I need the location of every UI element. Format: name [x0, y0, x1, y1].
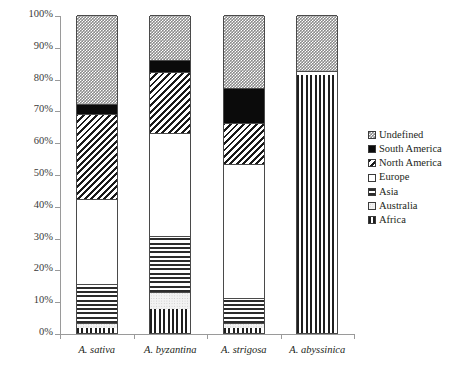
bar-segment-south-america[interactable]: [150, 60, 190, 73]
bar-segment-undefined[interactable]: [77, 15, 117, 104]
bar-a-abyssinica[interactable]: [296, 16, 338, 334]
bar-segment-undefined[interactable]: [297, 15, 337, 71]
bar-segment-europe[interactable]: [150, 133, 190, 236]
bar-segment-africa[interactable]: [224, 328, 264, 333]
bar-segment-australia[interactable]: [224, 323, 264, 328]
bar-segment-australia[interactable]: [77, 323, 117, 328]
y-axis-tick-label: 100%: [29, 8, 54, 19]
bar-segment-north-america[interactable]: [150, 72, 190, 132]
segment-divider: [224, 164, 264, 165]
x-axis-tick-mark: [60, 334, 61, 339]
segment-divider: [150, 292, 190, 293]
y-axis-tick-label: 40%: [34, 199, 53, 210]
bar-segment-south-america[interactable]: [77, 104, 117, 114]
bar-segment-asia[interactable]: [77, 284, 117, 324]
bar-a-sativa[interactable]: [76, 16, 118, 334]
legend-item-australia[interactable]: Australia: [368, 199, 466, 213]
x-axis-label-a-sativa: A. sativa: [60, 344, 134, 355]
segment-divider: [150, 15, 190, 16]
legend-item-africa[interactable]: Africa: [368, 213, 466, 227]
bar-segment-europe[interactable]: [77, 199, 117, 283]
y-axis-tick-label: 90%: [34, 40, 53, 51]
bar-segment-africa[interactable]: [297, 75, 337, 333]
bar-segment-south-america[interactable]: [224, 88, 264, 123]
legend-label: Europe: [379, 172, 409, 183]
y-axis-tick-label: 60%: [34, 135, 53, 146]
legend-swatch-icon: [368, 174, 376, 182]
y-axis-tick-label: 20%: [34, 262, 53, 273]
bar-segment-africa[interactable]: [150, 309, 190, 333]
segment-divider: [224, 123, 264, 124]
x-axis-label-a-strigosa: A. strigosa: [207, 344, 281, 355]
segment-divider: [297, 15, 337, 16]
segment-divider: [224, 88, 264, 89]
segment-divider: [77, 114, 117, 115]
segment-divider: [224, 298, 264, 299]
segment-divider: [77, 323, 117, 324]
x-axis-tick-mark: [134, 334, 135, 339]
x-axis-tick-mark: [354, 334, 355, 339]
segment-divider: [150, 60, 190, 61]
bar-segment-undefined[interactable]: [150, 15, 190, 60]
legend-item-undefined[interactable]: Undefined: [368, 128, 466, 142]
legend-item-south-america[interactable]: South America: [368, 142, 466, 156]
bar-segment-asia[interactable]: [224, 298, 264, 323]
legend-item-north-america[interactable]: North America: [368, 156, 466, 170]
segment-divider: [297, 71, 337, 72]
segment-divider: [77, 284, 117, 285]
y-axis-tick-label: 80%: [34, 72, 53, 83]
legend-swatch-icon: [368, 131, 376, 139]
y-axis-tick-label: 70%: [34, 103, 53, 114]
legend-label: South America: [379, 144, 442, 155]
bar-segment-europe[interactable]: [297, 71, 337, 76]
x-axis-label-a-byzantina: A. byzantina: [134, 344, 208, 355]
legend-label: Asia: [379, 187, 398, 198]
x-axis-label-a-abyssinica: A. abyssinica: [281, 344, 355, 355]
legend-label: Australia: [379, 201, 418, 212]
bar-segment-australia[interactable]: [150, 292, 190, 309]
y-axis-tick-label: 50%: [34, 167, 53, 178]
legend-swatch-icon: [368, 202, 376, 210]
bar-segment-europe[interactable]: [224, 164, 264, 298]
segment-divider: [150, 72, 190, 73]
segment-divider: [224, 323, 264, 324]
legend-swatch-icon: [368, 159, 376, 167]
segment-divider: [77, 104, 117, 105]
bar-a-byzantina[interactable]: [149, 16, 191, 334]
legend-label: North America: [379, 158, 442, 169]
legend-label: Undefined: [379, 130, 423, 141]
legend-item-asia[interactable]: Asia: [368, 185, 466, 199]
chart-legend: UndefinedSouth AmericaNorth AmericaEurop…: [368, 128, 466, 227]
bar-segment-undefined[interactable]: [224, 15, 264, 88]
legend-swatch-icon: [368, 216, 376, 224]
segment-divider: [77, 199, 117, 200]
y-axis-tick-label: 30%: [34, 231, 53, 242]
legend-label: Africa: [379, 215, 406, 226]
segment-divider: [224, 15, 264, 16]
y-axis-tick-label: 10%: [34, 294, 53, 305]
segment-divider: [150, 133, 190, 134]
segment-divider: [150, 236, 190, 237]
legend-swatch-icon: [368, 188, 376, 196]
x-axis-tick-mark: [281, 334, 282, 339]
y-axis-tick-label: 0%: [39, 326, 53, 337]
plot-area: [60, 16, 354, 334]
percent-stacked-bar-chart: 0%10%20%30%40%50%60%70%80%90%100% A. sat…: [0, 0, 468, 369]
legend-item-europe[interactable]: Europe: [368, 171, 466, 185]
bar-segment-north-america[interactable]: [224, 123, 264, 164]
bar-segment-asia[interactable]: [150, 236, 190, 292]
bar-segment-north-america[interactable]: [77, 114, 117, 200]
legend-swatch-icon: [368, 145, 376, 153]
x-axis-tick-mark: [207, 334, 208, 339]
segment-divider: [77, 15, 117, 16]
bar-a-strigosa[interactable]: [223, 16, 265, 334]
bar-segment-africa[interactable]: [77, 328, 117, 333]
